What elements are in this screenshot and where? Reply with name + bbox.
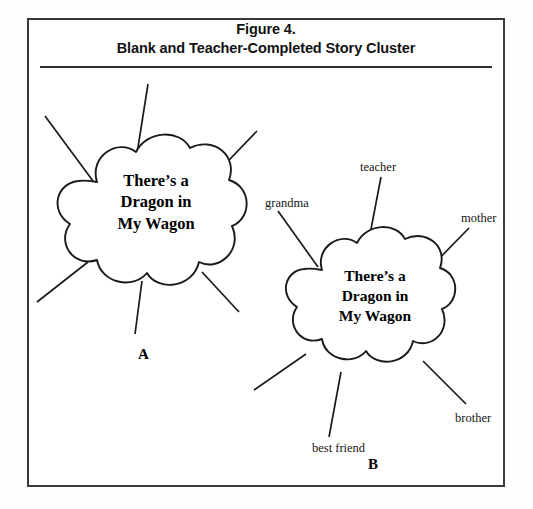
- cloud-b-text-line-1: There’s a: [308, 266, 442, 286]
- cloud-a-text-line-2: Dragon in: [83, 191, 229, 212]
- cloud-a-center-text: There’s a Dragon in My Wagon: [83, 170, 229, 234]
- cloud-b-branch-brother: [423, 361, 466, 404]
- figure-page: Figure 4. Blank and Teacher-Completed St…: [0, 0, 533, 509]
- cloud-a-branch-lower-right: [202, 272, 239, 312]
- cloud-b-center-text: There’s a Dragon in My Wagon: [308, 266, 442, 326]
- cloud-b-text-line-3: My Wagon: [308, 306, 442, 326]
- branch-label-mother: mother: [461, 211, 496, 226]
- cloud-a-text-line-1: There’s a: [83, 170, 229, 191]
- branch-label-brother: brother: [455, 411, 491, 426]
- branch-label-grandma: grandma: [265, 196, 309, 211]
- cloud-a-text-line-3: My Wagon: [83, 213, 229, 234]
- cloud-a-branch-lower-left: [37, 262, 88, 302]
- branch-label-best-friend: best friend: [312, 441, 365, 456]
- cloud-a-branch-bottom: [135, 281, 142, 334]
- cluster-diagram-canvas: [0, 0, 533, 509]
- branch-label-teacher: teacher: [360, 160, 396, 175]
- panel-letter-b: B: [368, 456, 378, 473]
- cloud-b-branch-unlabeled-lower-left: [254, 354, 306, 390]
- cloud-b-text-line-2: Dragon in: [308, 286, 442, 306]
- panel-letter-a: A: [138, 346, 149, 363]
- cloud-b-branch-best-friend: [329, 372, 341, 437]
- cloud-b-branch-grandma: [278, 211, 318, 267]
